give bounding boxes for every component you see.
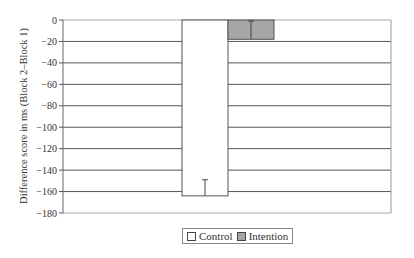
y-tick-label: −80: [41, 100, 57, 111]
legend-label-control: Control: [199, 230, 233, 242]
legend-label-intention: Intention: [249, 230, 289, 242]
bars: [182, 20, 274, 196]
bar-control: [182, 20, 228, 196]
y-tick-label: −160: [36, 186, 57, 197]
bar-chart: 0−20−40−60−80−100−120−140−160−180 Differ…: [0, 0, 414, 258]
legend-item-intention: Intention: [237, 230, 289, 242]
legend: Control Intention: [182, 228, 293, 244]
y-tick-label: −180: [36, 208, 57, 219]
y-tick-label: −120: [36, 143, 57, 154]
y-tick-label: −40: [41, 57, 57, 68]
control-swatch-icon: [187, 232, 196, 241]
y-tick-label: −20: [41, 36, 57, 47]
intention-swatch-icon: [237, 232, 246, 241]
y-tick-label: −140: [36, 165, 57, 176]
y-tick-label: −100: [36, 122, 57, 133]
y-tick-label: −60: [41, 79, 57, 90]
y-axis-ticks: 0−20−40−60−80−100−120−140−160−180: [36, 15, 63, 219]
y-axis-label: Difference score in ms (Block 2–Block 1): [18, 28, 30, 204]
y-tick-label: 0: [52, 15, 57, 26]
legend-item-control: Control: [187, 230, 233, 242]
